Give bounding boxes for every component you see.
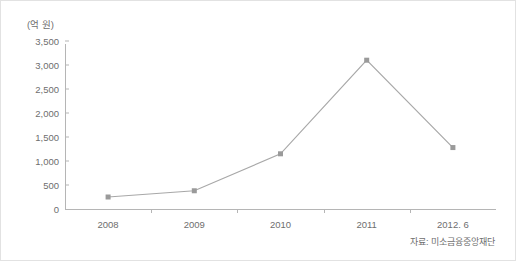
y-axis-tick-mark xyxy=(65,161,69,162)
data-point-marker[interactable] xyxy=(450,145,455,150)
y-axis-tick-mark xyxy=(65,41,69,42)
series-line xyxy=(108,60,453,197)
x-axis-tick-mark xyxy=(237,209,238,213)
data-point-marker[interactable] xyxy=(192,188,197,193)
line-series xyxy=(65,41,496,209)
x-axis-tick-mark xyxy=(410,209,411,213)
y-axis-tick-label: 2,500 xyxy=(35,84,65,95)
chart-figure: (억 원) 05001,0001,5002,0002,5003,0003,500… xyxy=(0,0,516,261)
source-note: 자료: 미소금융중앙재단 xyxy=(410,235,495,248)
plot-area: 05001,0001,5002,0002,5003,0003,500200820… xyxy=(65,41,496,209)
y-axis-tick-label: 3,000 xyxy=(35,60,65,71)
x-axis-tick-label: 2011 xyxy=(356,219,376,230)
y-axis-tick-mark xyxy=(65,137,69,138)
y-axis-tick-mark xyxy=(65,89,69,90)
y-axis-tick-label: 2,000 xyxy=(35,108,65,119)
y-axis-tick-label: 3,500 xyxy=(35,36,65,47)
y-axis-tick-label: 500 xyxy=(43,180,65,191)
y-axis-tick-mark xyxy=(65,113,69,114)
y-axis-tick-label: 0 xyxy=(54,204,65,215)
y-axis-tick-label: 1,000 xyxy=(35,156,65,167)
data-point-marker[interactable] xyxy=(364,58,369,63)
x-axis-tick-mark xyxy=(151,209,152,213)
data-point-marker[interactable] xyxy=(106,195,111,200)
y-axis-tick-mark xyxy=(65,65,69,66)
y-axis-unit-label: (억 원) xyxy=(27,17,54,31)
x-axis-line xyxy=(65,209,496,210)
x-axis-tick-label: 2012. 6 xyxy=(437,219,469,230)
x-axis-tick-mark xyxy=(324,209,325,213)
y-axis-tick-mark xyxy=(65,185,69,186)
x-axis-tick-label: 2010 xyxy=(270,219,291,230)
x-axis-tick-label: 2008 xyxy=(98,219,119,230)
y-axis-tick-label: 1,500 xyxy=(35,132,65,143)
data-point-marker[interactable] xyxy=(278,151,283,156)
x-axis-tick-label: 2009 xyxy=(184,219,205,230)
